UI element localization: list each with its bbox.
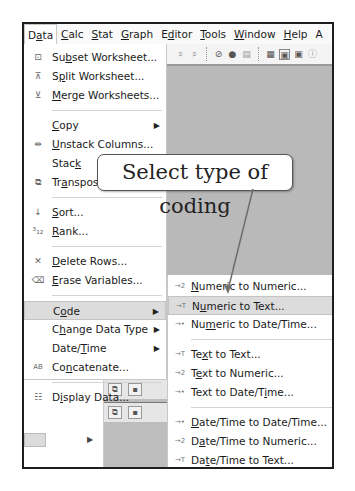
info-icon[interactable]: ⓘ (307, 49, 318, 60)
submenu-item-label: Date/Time to Text... (191, 454, 294, 466)
help-icon[interactable]: ● (227, 49, 238, 60)
menu-item-change-data-type[interactable]: Change Data Type ▶ (24, 320, 166, 339)
maximize-icon[interactable]: ▪ (128, 406, 142, 419)
menu-item-label: Erase Variables... (52, 274, 143, 286)
merge-worksheets-icon: ⊻ (30, 86, 46, 105)
annotation-callout: Select type of coding (97, 154, 293, 191)
text-to-datetime-icon: →• (172, 383, 188, 402)
menu-separator (52, 382, 162, 383)
submenu-item-datetime-to-numeric[interactable]: →2 Date/Time to Numeric... (168, 432, 334, 451)
subset-worksheet-icon: ⊡ (30, 48, 46, 67)
menu-item-label: Unstack Columns... (52, 138, 153, 150)
menu-item-delete-rows[interactable]: ✕ Delete Rows... (24, 252, 166, 271)
submenu-arrow-icon: ▶ (154, 320, 160, 339)
menu-item-code[interactable]: Code ▶ (24, 301, 166, 320)
concatenate-icon: AB (30, 358, 46, 377)
submenu-item-datetime-to-datetime[interactable]: →• Date/Time to Date/Time... (168, 413, 334, 432)
code-submenu: →2 Numeric to Numeric... →T Numeric to T… (167, 275, 334, 469)
menu-item-label: Delete Rows... (52, 255, 127, 267)
toolbar-separator (206, 47, 207, 61)
display-data-icon: ☷ (30, 388, 46, 407)
datetime-to-text-icon: →T (172, 451, 188, 469)
menu-item-label: Subset Worksheet... (52, 51, 157, 63)
app-window: Data Calc Stat Graph Editor Tools Window… (22, 22, 334, 469)
menu-separator (52, 246, 162, 247)
menu-item-subset-worksheet[interactable]: ⊡ Subset Worksheet... (24, 48, 166, 67)
sort-icon: ↓ (30, 203, 46, 222)
submenu-arrow-icon: ▶ (154, 116, 160, 135)
menu-calc[interactable]: Calc (57, 24, 87, 44)
menu-item-concatenate[interactable]: AB Concatenate... (24, 358, 166, 377)
find-icon[interactable]: ⌕ (175, 49, 186, 60)
menu-graph[interactable]: Graph (117, 24, 157, 44)
submenu-item-datetime-to-text[interactable]: →T Date/Time to Text... (168, 451, 334, 469)
menu-item-label: Code (53, 305, 80, 317)
submenu-separator (191, 339, 332, 340)
menu-item-split-worksheet[interactable]: ⊼ Split Worksheet... (24, 67, 166, 86)
erase-variables-icon: ⌫ (30, 271, 46, 290)
submenu-item-numeric-to-numeric[interactable]: →2 Numeric to Numeric... (168, 277, 334, 296)
menu-tools[interactable]: Tools (196, 24, 230, 44)
menu-separator (52, 110, 162, 111)
submenu-item-text-to-numeric[interactable]: →2 Text to Numeric... (168, 364, 334, 383)
datetime-to-datetime-icon: →• (172, 413, 188, 432)
menu-separator (52, 197, 162, 198)
delete-rows-icon: ✕ (30, 252, 46, 271)
toolbar-separator (258, 47, 259, 61)
menu-item-merge-worksheets[interactable]: ⊻ Merge Worksheets... (24, 86, 166, 105)
menu-item-label: Merge Worksheets... (52, 89, 159, 101)
numeric-to-datetime-icon: →• (172, 315, 188, 334)
menu-item-rank[interactable]: ³₁₂ Rank... (24, 222, 166, 241)
submenu-separator (191, 407, 332, 408)
submenu-item-text-to-text[interactable]: →T Text to Text... (168, 345, 334, 364)
project-manager-icon[interactable]: ▣ (293, 49, 304, 60)
find-replace-icon[interactable]: ⌕ (189, 49, 200, 60)
menu-item-label: Display Data... (52, 391, 129, 403)
menu-item-display-data[interactable]: ☷ Display Data... (24, 388, 166, 407)
submenu-arrow-icon: ▶ (153, 302, 159, 321)
cancel-icon[interactable]: ⊘ (213, 49, 224, 60)
menu-item-date-time[interactable]: Date/Time ▶ (24, 339, 166, 358)
menu-item-label: Concatenate... (52, 361, 129, 373)
menu-item-label: Rank... (52, 225, 88, 237)
submenu-item-numeric-to-datetime[interactable]: →• Numeric to Date/Time... (168, 315, 334, 334)
menu-separator (52, 295, 162, 296)
menu-assistant[interactable]: A (311, 24, 326, 44)
submenu-item-numeric-to-text[interactable]: →T Numeric to Text... (168, 296, 334, 315)
submenu-item-label: Date/Time to Numeric... (191, 435, 317, 447)
submenu-item-label: Text to Date/Time... (191, 386, 294, 398)
submenu-arrow-icon: ▶ (154, 339, 160, 358)
menu-stat[interactable]: Stat (88, 24, 117, 44)
menu-item-label: Copy (52, 119, 79, 131)
menu-window[interactable]: Window (230, 24, 279, 44)
menu-item-label: Sort... (52, 206, 84, 218)
transpose-icon: ⧉ (30, 173, 46, 192)
text-to-numeric-icon: →2 (172, 364, 188, 383)
menu-editor[interactable]: Editor (157, 24, 196, 44)
numeric-to-numeric-icon: →2 (172, 277, 188, 296)
menu-item-copy[interactable]: Copy ▶ (24, 116, 166, 135)
split-worksheet-icon: ⊼ (30, 67, 46, 86)
submenu-item-text-to-datetime[interactable]: →• Text to Date/Time... (168, 383, 334, 402)
worksheet-icon[interactable]: ▦ (265, 49, 276, 60)
restore-icon[interactable]: ⧉ (108, 406, 122, 419)
menu-item-label: Date/Time (52, 342, 106, 354)
submenu-item-label: Numeric to Numeric... (191, 280, 307, 292)
session-window-icon[interactable]: ▣ (279, 49, 290, 60)
toolbar: ⌕ ⌕ ⊘ ● ▤ ▦ ▣ ▣ ⓘ (167, 44, 334, 66)
menu-bar: Data Calc Stat Graph Editor Tools Window… (24, 24, 332, 44)
scrollbar-thumb[interactable] (24, 433, 46, 447)
menu-item-sort[interactable]: ↓ Sort... (24, 203, 166, 222)
scroll-right-icon[interactable]: ▶ (87, 435, 93, 444)
menu-item-label: Split Worksheet... (52, 70, 144, 82)
menu-data[interactable]: Data (24, 24, 57, 44)
datetime-to-numeric-icon: →2 (172, 432, 188, 451)
rank-icon: ³₁₂ (30, 222, 46, 241)
menu-item-label: Change Data Type (52, 323, 148, 335)
submenu-item-label: Text to Numeric... (191, 367, 284, 379)
document-icon[interactable]: ▤ (241, 49, 252, 60)
submenu-item-label: Text to Text... (191, 348, 261, 360)
menu-item-unstack-columns[interactable]: ⇹ Unstack Columns... (24, 135, 166, 154)
menu-item-erase-variables[interactable]: ⌫ Erase Variables... (24, 271, 166, 290)
menu-help[interactable]: Help (280, 24, 312, 44)
